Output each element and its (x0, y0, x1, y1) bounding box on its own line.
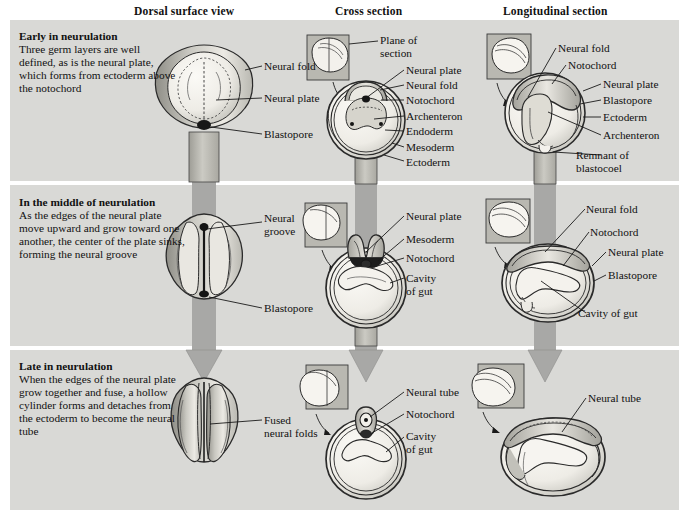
label-archenteron-cross-early: Archenteron (406, 110, 462, 123)
label-ectoderm-cross-early: Ectoderm (406, 156, 450, 169)
stage-description-middle: In the middle of neurulation As the edge… (19, 196, 189, 261)
label-neural-fold-cross-early: Neural fold (406, 79, 458, 92)
stage-description-early: Early in neurulation Three germ layers a… (19, 30, 179, 95)
figure-canvas: Dorsal surface view Cross section Longit… (0, 0, 689, 517)
label-blastopore-long-middle: Blastopore (608, 269, 657, 282)
label-endoderm-cross-early: Endoderm (406, 125, 453, 138)
stage-body-late: When the edges of the neural plate grow … (19, 373, 176, 437)
label-plane-of-section-early: Plane of section (380, 34, 417, 59)
label-neural-fold-dorsal-early: Neural fold (264, 60, 316, 73)
label-neural-plate-cross-middle: Neural plate (406, 210, 462, 223)
label-blastopore-long-early: Blastopore (603, 94, 652, 107)
label-neural-fold-long-middle: Neural fold (586, 203, 638, 216)
label-mesoderm-cross-middle: Mesoderm (406, 233, 454, 246)
stage-title-early: Early in neurulation (19, 30, 179, 43)
embryo-cross-early (327, 81, 405, 184)
label-neural-plate-long-middle: Neural plate (608, 246, 664, 259)
label-blastopore-dorsal-early: Blastopore (264, 128, 313, 141)
label-notochord-long-early: Notochord (568, 59, 616, 72)
label-notochord-cross-early: Notochord (406, 94, 454, 107)
label-ectoderm-long-early: Ectoderm (603, 111, 647, 124)
label-neural-plate-dorsal-early: Neural plate (264, 92, 320, 105)
embryo-cross-late (326, 407, 406, 499)
label-neural-fold-long-early: Neural fold (558, 42, 610, 55)
label-blastopore-dorsal-middle: Blastopore (264, 302, 313, 315)
label-mesoderm-cross-early: Mesoderm (406, 141, 454, 154)
label-cavity-of-gut-cross-late: Cavity of gut (406, 430, 436, 455)
label-notochord-cross-late: Notochord (406, 408, 454, 421)
stage-body-middle: As the edges of the neural plate move up… (19, 209, 185, 260)
label-neural-tube-cross-late: Neural tube (406, 386, 459, 399)
label-remnant-blastocoel-long-early: Remnant of blastocoel (576, 149, 629, 174)
label-archenteron-long-early: Archenteron (603, 129, 659, 142)
stage-title-middle: In the middle of neurulation (19, 196, 189, 209)
embryo-dorsal-late (171, 378, 238, 462)
label-cavity-of-gut-cross-middle: Cavity of gut (406, 272, 436, 297)
stage-title-late: Late in neurulation (19, 360, 179, 373)
label-cavity-of-gut-long-middle: Cavity of gut (578, 307, 638, 320)
stage-description-late: Late in neurulation When the edges of th… (19, 360, 179, 438)
embryo-longitudinal-early (505, 73, 585, 184)
stage-body-early: Three germ layers are well defined, as i… (19, 43, 175, 94)
label-fused-neural-folds-dorsal-late: Fused neural folds (264, 414, 318, 439)
label-notochord-cross-middle: Notochord (406, 252, 454, 265)
embryo-longitudinal-late (501, 418, 605, 496)
column-header-cross: Cross section (335, 5, 402, 17)
label-neural-plate-long-early: Neural plate (603, 78, 659, 91)
label-notochord-long-middle: Notochord (590, 226, 638, 239)
label-neural-plate-cross-early: Neural plate (406, 64, 462, 77)
column-header-dorsal: Dorsal surface view (134, 5, 234, 17)
inset-longitudinal-late (472, 364, 524, 433)
column-header-longitudinal: Longitudinal section (503, 5, 608, 17)
label-neural-tube-long-late: Neural tube (588, 392, 641, 405)
label-neural-groove-dorsal-middle: Neural groove (264, 212, 295, 237)
